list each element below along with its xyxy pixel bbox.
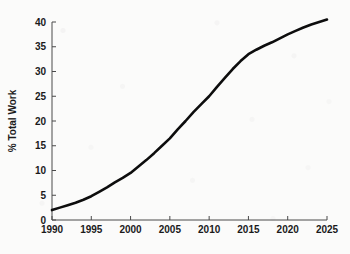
- y-tick-label: 40: [35, 17, 47, 28]
- line-chart-plot: 19901995200020052010201520202025 0510152…: [0, 0, 350, 254]
- x-tick-label: 2005: [159, 224, 182, 235]
- y-axis-ticks: 0510152025303540: [35, 17, 56, 226]
- series-line-percent-total-work: [52, 20, 327, 211]
- chart-figure: 19901995200020052010201520202025 0510152…: [0, 0, 350, 254]
- y-tick-label: 10: [35, 165, 47, 176]
- y-tick-label: 30: [35, 66, 47, 77]
- x-tick-label: 1995: [80, 224, 103, 235]
- y-tick-label: 25: [35, 91, 47, 102]
- y-tick-label: 15: [35, 140, 47, 151]
- y-tick-label: 20: [35, 116, 47, 127]
- data-series-group: [52, 20, 327, 211]
- y-tick-label: 35: [35, 41, 47, 52]
- x-tick-label: 2015: [237, 224, 260, 235]
- x-tick-label: 2000: [119, 224, 142, 235]
- y-tick-label: 5: [40, 190, 46, 201]
- x-tick-label: 2020: [277, 224, 300, 235]
- y-tick-label: 0: [40, 215, 46, 226]
- axes-group: [52, 22, 327, 220]
- x-tick-label: 2010: [198, 224, 221, 235]
- x-tick-label: 2025: [316, 224, 339, 235]
- x-axis-ticks: 19901995200020052010201520202025: [41, 216, 339, 235]
- y-axis-title: % Total Work: [7, 89, 18, 152]
- x-tick-label: 1990: [41, 224, 64, 235]
